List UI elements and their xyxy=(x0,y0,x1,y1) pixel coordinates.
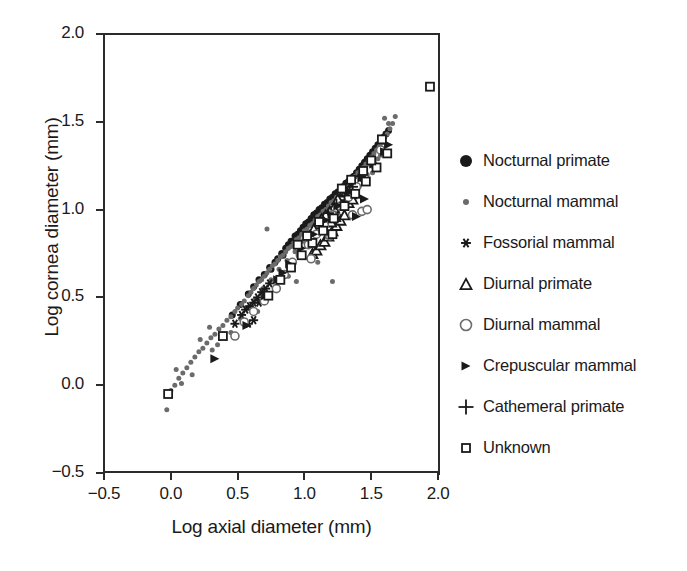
legend-item-label: Nocturnal mammal xyxy=(483,192,618,211)
x-tick xyxy=(170,473,172,480)
legend-item-label: Fossorial mammal xyxy=(483,233,615,252)
plot-frame-right-edge xyxy=(438,33,440,475)
x-tick xyxy=(103,473,105,480)
y-tick xyxy=(96,472,103,474)
scatter-plot-figure: −0.50.00.51.01.52.0 −0.50.00.51.01.52.0 … xyxy=(0,0,687,571)
small-filled-circle-icon xyxy=(455,191,477,213)
asterisk-icon xyxy=(455,232,477,254)
x-tick-label: 0.0 xyxy=(141,484,201,504)
legend-item-label: Cathemeral primate xyxy=(483,397,624,416)
y-axis-title: Log cornea diameter (mm) xyxy=(41,27,63,427)
legend-item-label: Nocturnal primate xyxy=(483,151,610,170)
open-circle-icon xyxy=(455,314,477,336)
y-tick xyxy=(96,33,103,35)
y-tick-label: −0.5 xyxy=(40,462,84,482)
open-square-icon xyxy=(455,437,477,459)
x-axis-title: Log axial diameter (mm) xyxy=(103,516,440,538)
x-tick xyxy=(303,473,305,480)
x-tick-label: 2.0 xyxy=(408,484,468,504)
legend-item-label: Diurnal mammal xyxy=(483,315,600,334)
plus-icon xyxy=(455,396,477,418)
y-tick xyxy=(96,121,103,123)
plot-frame-top-edge xyxy=(103,33,440,35)
legend-item-label: Unknown xyxy=(483,438,550,457)
x-tick-label: −0.5 xyxy=(74,484,134,504)
y-tick xyxy=(96,384,103,386)
y-tick xyxy=(96,209,103,211)
x-tick xyxy=(237,473,239,480)
x-tick xyxy=(437,473,439,480)
legend-item-label: Crepuscular mammal xyxy=(483,356,636,375)
x-tick xyxy=(370,473,372,480)
y-tick xyxy=(96,296,103,298)
x-tick-label: 0.5 xyxy=(208,484,268,504)
legend-item-label: Diurnal primate xyxy=(483,274,592,293)
x-tick-label: 1.0 xyxy=(274,484,334,504)
filled-circle-icon xyxy=(455,150,477,172)
x-tick-label: 1.5 xyxy=(341,484,401,504)
plot-frame xyxy=(103,33,440,473)
open-triangle-icon xyxy=(455,273,477,295)
right-triangle-icon xyxy=(455,355,477,377)
